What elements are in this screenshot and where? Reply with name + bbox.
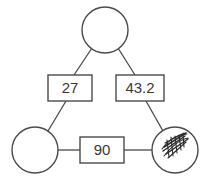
connector-right-box-to-bottom-right <box>146 101 163 131</box>
edge-box-left[interactable]: 27 <box>48 75 92 101</box>
edge-box-bottom[interactable]: 90 <box>80 137 124 163</box>
edge-box-left-label: 27 <box>62 79 79 96</box>
node-circle-top[interactable] <box>82 7 128 53</box>
edge-box-right-label: 43.2 <box>125 79 154 96</box>
edge-box-bottom-label: 90 <box>94 141 111 158</box>
edge-box-right[interactable]: 43.2 <box>116 75 164 101</box>
node-circle-bottom-right[interactable] <box>152 127 198 173</box>
node-circle-bottom-right-outline <box>152 127 198 173</box>
diagram-svg: 27 43.2 90 <box>0 0 203 182</box>
connector-top-to-left-box <box>74 48 92 75</box>
connector-top-to-right-box <box>118 48 135 75</box>
triangle-diagram-canvas: 27 43.2 90 <box>0 0 203 182</box>
node-circle-bottom-left[interactable] <box>12 127 58 173</box>
connector-left-box-to-bottom-left <box>48 101 66 131</box>
